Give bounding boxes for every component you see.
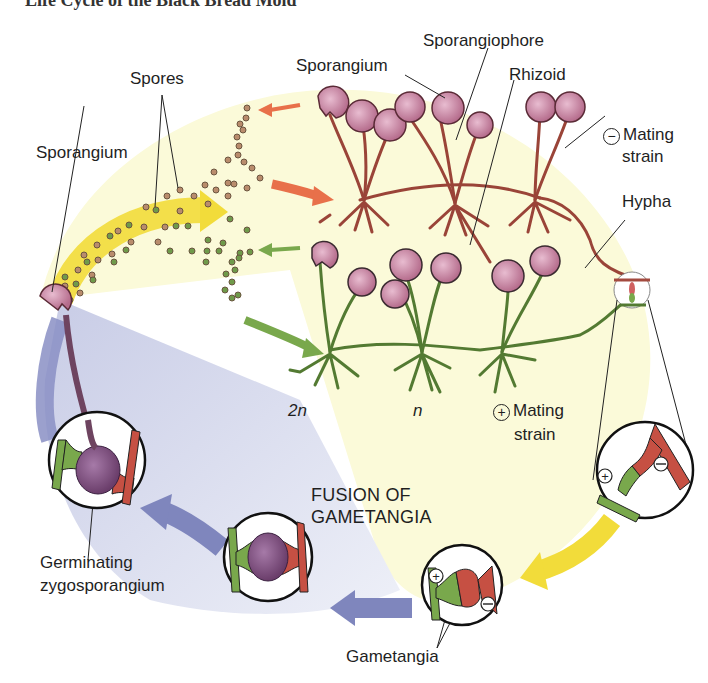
plus-symbol-icon: + [493, 404, 510, 421]
label-hypha: Hypha [622, 191, 671, 212]
label-sporangium-top: Sporangium [296, 55, 388, 76]
svg-text:+: + [601, 469, 609, 484]
label-rhizoid: Rhizoid [509, 64, 566, 85]
label-zygosporangium: zygosporangium [40, 575, 165, 596]
circle-germinating [49, 412, 145, 508]
label-mating: Mating [513, 401, 564, 420]
circle-fusion: + [422, 545, 502, 625]
label-sporangium-left: Sporangium [36, 142, 128, 163]
label-n: n [413, 400, 422, 421]
label-minus-strain-word: strain [622, 146, 664, 167]
label-2n: 2n [288, 400, 307, 421]
label-mating: Mating [623, 125, 674, 144]
label-gametangia: Gametangia [346, 646, 439, 667]
label-minus-mating-strain: −Mating [603, 124, 674, 145]
label-sporangiophore: Sporangiophore [423, 30, 544, 51]
label-fusion-of: FUSION OF [311, 484, 411, 506]
circle-gametangia-contact: + [597, 422, 693, 522]
label-gametangia-caps: GAMETANGIA [311, 506, 432, 528]
label-plus-mating-strain: +Mating [493, 400, 564, 421]
label-spores: Spores [130, 68, 184, 89]
label-plus-strain-word: strain [514, 424, 556, 445]
minus-symbol-icon: − [603, 128, 620, 145]
circle-zygosporangium [224, 513, 312, 601]
label-germinating: Germinating [40, 552, 133, 573]
svg-text:+: + [432, 569, 440, 584]
rhizopus-life-cycle-diagram: Life Cycle of the Black Bread Mold [0, 0, 708, 683]
